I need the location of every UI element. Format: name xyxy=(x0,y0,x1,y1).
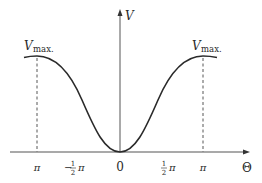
svg-text:1: 1 xyxy=(162,160,166,168)
vmax-label-left: V max. xyxy=(24,39,54,54)
x-axis xyxy=(10,150,250,155)
svg-text:π: π xyxy=(168,162,176,173)
svg-text:π: π xyxy=(77,162,85,173)
svg-text:max.: max. xyxy=(33,44,54,54)
vmax-label-right: V max. xyxy=(192,39,222,54)
svg-text:1: 1 xyxy=(71,160,75,168)
y-axis-arrow-icon xyxy=(118,9,123,16)
svg-text:2: 2 xyxy=(162,169,166,177)
y-axis xyxy=(118,9,123,152)
tick-label-neg-half-pi: − 1 2 π xyxy=(64,160,85,177)
x-axis-label: Θ xyxy=(242,161,252,175)
svg-text:2: 2 xyxy=(71,169,75,177)
svg-text:max.: max. xyxy=(201,44,222,54)
tick-label-half-pi: 1 2 π xyxy=(161,160,176,177)
tick-label-pi: π xyxy=(199,162,207,173)
y-axis-label: V xyxy=(125,9,135,23)
x-axis-arrow-icon xyxy=(243,150,250,155)
tick-label-zero: 0 xyxy=(116,160,124,174)
tick-label-neg-pi: π xyxy=(33,162,41,173)
potential-energy-diagram: V V max. V max. π − 1 2 π 0 1 2 π π Θ xyxy=(0,0,262,183)
